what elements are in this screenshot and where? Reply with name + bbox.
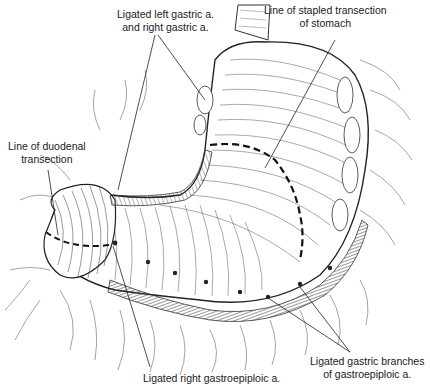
stomach-illustration xyxy=(0,0,430,389)
label-ligated-gastric-branches: Ligated gastric branches of gastroepiplo… xyxy=(310,355,424,381)
label-line: Ligated left gastric a. xyxy=(117,8,214,21)
label-line: of stomach xyxy=(264,17,387,30)
label-line: Line of duodenal xyxy=(8,140,86,153)
label-line: transection xyxy=(8,153,86,166)
label-stapled-transection: Line of stapled transection of stomach xyxy=(264,4,387,30)
label-line: and right gastric a. xyxy=(117,21,214,34)
label-line: of gastroepiploic a. xyxy=(310,368,424,381)
label-ligated-right-gastroepiploic: Ligated right gastroepiploic a. xyxy=(143,372,280,385)
label-line: Line of stapled transection xyxy=(264,4,387,17)
label-duodenal-transection: Line of duodenal transection xyxy=(8,140,86,166)
label-ligated-left-gastric: Ligated left gastric a. and right gastri… xyxy=(117,8,214,34)
label-line: Ligated right gastroepiploic a. xyxy=(143,372,280,385)
label-line: Ligated gastric branches xyxy=(310,355,424,368)
